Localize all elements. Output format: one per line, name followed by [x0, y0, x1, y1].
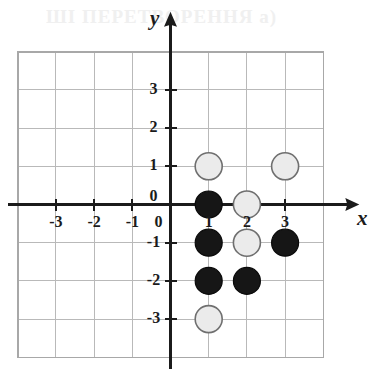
x-tick-label: -1: [119, 213, 145, 231]
figure-page: ШІ ПЕРЕТВОРЕННЯ а) y x -3-2-101233210-1-…: [0, 0, 382, 383]
x-tick-label: 3: [272, 213, 298, 231]
data-point-light[interactable]: [233, 229, 260, 256]
coordinate-plane-chart: [0, 0, 382, 383]
axes-layer: [8, 12, 360, 370]
x-axis-label: x: [357, 206, 368, 231]
x-tick-label: 2: [234, 213, 260, 231]
y-axis-arrowhead: [164, 12, 177, 27]
y-tick-label: 1: [141, 156, 167, 174]
y-tick-label: 2: [141, 118, 167, 136]
data-point-dark[interactable]: [272, 229, 299, 256]
data-point-light[interactable]: [272, 153, 299, 180]
x-tick-label: -3: [43, 213, 69, 231]
y-tick-label: -1: [141, 233, 167, 251]
data-point-dark[interactable]: [195, 267, 222, 294]
data-point-light[interactable]: [195, 153, 222, 180]
y-tick-label: 3: [141, 80, 167, 98]
x-tick-label: 1: [196, 213, 222, 231]
data-point-dark[interactable]: [195, 229, 222, 256]
y-tick-label: -2: [141, 271, 167, 289]
origin-tick-label: 0: [146, 213, 172, 231]
y-axis-label: y: [150, 6, 159, 31]
data-point-dark[interactable]: [233, 267, 260, 294]
data-point-light[interactable]: [195, 306, 222, 333]
x-tick-label: -2: [81, 213, 107, 231]
y-tick-label: 0: [141, 187, 167, 205]
y-tick-label: -3: [141, 309, 167, 327]
